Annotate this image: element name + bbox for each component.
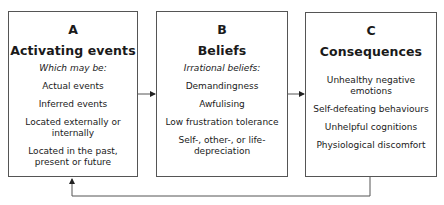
box-activating-events: A Activating events Which may be: Actual… bbox=[8, 11, 138, 177]
list-item: Self-, other-, or life-depreciation bbox=[157, 135, 287, 157]
box-title: Consequences bbox=[306, 44, 436, 59]
arrow-c-to-a-feedback bbox=[72, 177, 370, 196]
list-item: Low frustration tolerance bbox=[157, 117, 287, 128]
list-item: Unhealthy negative emotions bbox=[306, 75, 436, 97]
list-item: Physiological discomfort bbox=[306, 140, 436, 151]
box-subtitle: Which may be: bbox=[9, 63, 137, 74]
box-letter: A bbox=[9, 23, 137, 37]
list-item: Actual events bbox=[9, 81, 137, 92]
list-item: Unhelpful cognitions bbox=[306, 122, 436, 133]
box-letter: C bbox=[306, 24, 436, 38]
box-beliefs: B Beliefs Irrational beliefs: Demandingn… bbox=[156, 11, 288, 177]
list-item: Demandingness bbox=[157, 81, 287, 92]
box-letter: B bbox=[157, 23, 287, 37]
box-title: Activating events bbox=[9, 43, 137, 58]
box-subtitle: Irrational beliefs: bbox=[157, 63, 287, 74]
box-consequences: C Consequences Unhealthy negative emotio… bbox=[305, 12, 437, 177]
list-item: Self-defeating behaviours bbox=[306, 104, 436, 115]
box-title: Beliefs bbox=[157, 43, 287, 58]
list-item: Inferred events bbox=[9, 99, 137, 110]
list-item: Located externally or internally bbox=[9, 117, 137, 139]
list-item: Located in the past, present or future bbox=[9, 146, 137, 168]
list-item: Awfulising bbox=[157, 99, 287, 110]
